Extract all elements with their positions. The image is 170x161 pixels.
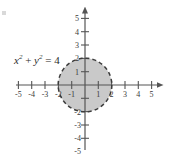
y-tick-label: 4 <box>75 28 79 37</box>
x-tick-label: -1 <box>68 90 75 99</box>
y-tick-label: 5 <box>75 14 79 23</box>
equation-equals-value: = 4 <box>43 54 60 66</box>
x-tick-label: 5 <box>150 90 154 99</box>
y-tick-label: 2 <box>75 54 79 63</box>
graph-figure: -5 -4 -3 -2 -1 1 2 3 4 5 5 4 3 2 1 -2 -3… <box>0 0 170 161</box>
x-tick-label: -5 <box>15 90 22 99</box>
equation-plus-operator: + <box>22 54 34 66</box>
y-tick-label: 3 <box>75 41 79 50</box>
equation-label: x2 + y2 = 4 <box>14 53 60 66</box>
y-tick-label: -3 <box>74 121 81 130</box>
x-tick-label: 2 <box>110 90 114 99</box>
x-tick-label: 1 <box>96 90 100 99</box>
coordinate-plane: -5 -4 -3 -2 -1 1 2 3 4 5 5 4 3 2 1 -2 -3… <box>0 0 170 161</box>
x-tick-label: 4 <box>136 90 140 99</box>
x-tick-label: -2 <box>55 90 62 99</box>
x-tick-label: -4 <box>28 90 35 99</box>
y-tick-label: -2 <box>74 108 81 117</box>
y-tick-label: -4 <box>74 134 81 143</box>
x-tick-label: 3 <box>123 90 127 99</box>
y-tick-label: 1 <box>75 68 79 77</box>
x-tick-label: -3 <box>42 90 49 99</box>
y-tick-label: -5 <box>74 147 81 156</box>
